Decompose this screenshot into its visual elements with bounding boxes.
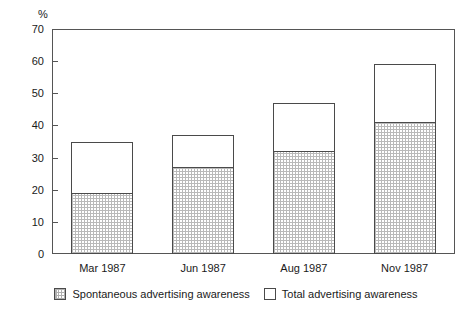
y-axis-tick-mark bbox=[52, 222, 58, 223]
y-axis-tick-label: 30 bbox=[14, 152, 44, 163]
x-axis-category-label: Jun 1987 bbox=[153, 262, 254, 274]
hatched-swatch bbox=[54, 288, 66, 300]
legend-item-label: Spontaneous advertising awareness bbox=[72, 288, 249, 300]
white-swatch bbox=[264, 288, 276, 300]
y-axis-tick-label: 40 bbox=[14, 120, 44, 131]
y-axis-tick-label: 50 bbox=[14, 88, 44, 99]
y-axis-tick-label: 70 bbox=[14, 24, 44, 35]
y-axis-tick-label: 60 bbox=[14, 56, 44, 67]
x-axis-category-label: Mar 1987 bbox=[52, 262, 153, 274]
y-axis-tick-mark bbox=[52, 61, 58, 62]
x-axis-category-label: Aug 1987 bbox=[254, 262, 355, 274]
legend-item: Total advertising awareness bbox=[264, 288, 418, 300]
chart-legend: Spontaneous advertising awarenessTotal a… bbox=[0, 288, 472, 300]
y-axis-tick-mark bbox=[52, 93, 58, 94]
bar-segment-spontaneous bbox=[172, 167, 234, 254]
legend-item: Spontaneous advertising awareness bbox=[54, 288, 249, 300]
y-axis-unit-label: % bbox=[38, 8, 48, 20]
y-axis-tick-mark bbox=[52, 190, 58, 191]
legend-item-label: Total advertising awareness bbox=[282, 288, 418, 300]
y-axis-tick-mark bbox=[52, 158, 58, 159]
bar-segment-spontaneous bbox=[71, 193, 133, 254]
x-axis-category-label: Nov 1987 bbox=[354, 262, 455, 274]
y-axis-tick-mark bbox=[52, 125, 58, 126]
bar-segment-spontaneous bbox=[374, 122, 436, 254]
y-axis-tick-label: 0 bbox=[14, 249, 44, 260]
bar-segment-spontaneous bbox=[273, 151, 335, 254]
y-axis-tick-label: 10 bbox=[14, 216, 44, 227]
stacked-bar-chart: % 010203040506070 Mar 1987Jun 1987Aug 19… bbox=[0, 0, 472, 318]
y-axis-tick-label: 20 bbox=[14, 184, 44, 195]
